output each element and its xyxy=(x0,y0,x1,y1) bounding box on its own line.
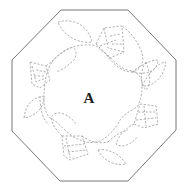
center-label: A xyxy=(84,91,95,106)
tulip-motif-top xyxy=(58,21,166,90)
tulip-motif-left xyxy=(24,48,76,124)
tulip-motif-bottom xyxy=(52,113,128,165)
tulip-motif-right xyxy=(116,60,158,146)
stitch-wreath xyxy=(24,21,166,165)
